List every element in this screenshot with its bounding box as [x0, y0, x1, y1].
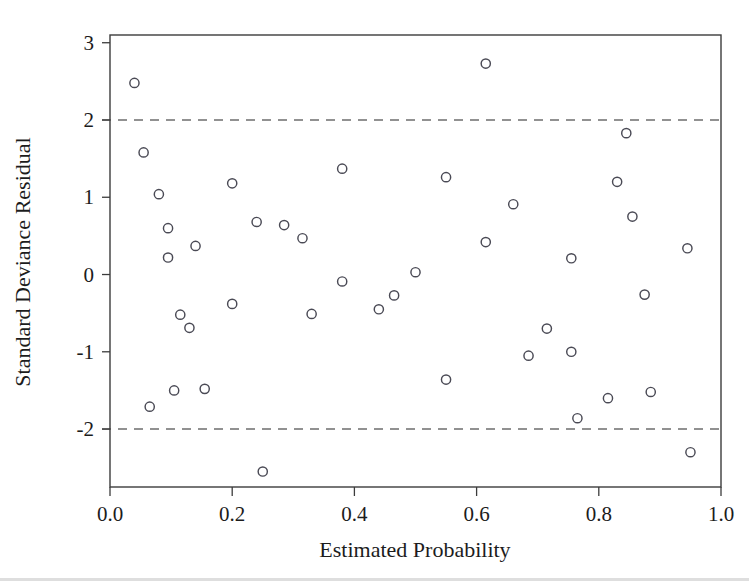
x-tick-label-3: 0.6: [463, 502, 489, 526]
bottom-divider: [0, 578, 749, 581]
x-tick-label-0: 0.0: [97, 502, 123, 526]
y-tick-label-3: 0: [84, 263, 95, 287]
scatter-plot: 3210-1-20.00.20.40.60.81.0 Estimated Pro…: [0, 0, 749, 588]
y-axis-title: Standard Deviance Residual: [10, 137, 35, 386]
y-tick-label-0: 3: [84, 31, 95, 55]
y-tick-label-2: 1: [84, 185, 95, 209]
figure-container: 3210-1-20.00.20.40.60.81.0 Estimated Pro…: [0, 0, 749, 588]
x-tick-label-1: 0.2: [219, 502, 245, 526]
plot-background: [0, 0, 749, 588]
y-tick-label-1: 2: [84, 108, 95, 132]
y-tick-label-5: -2: [77, 417, 95, 441]
x-tick-label-5: 1.0: [708, 502, 734, 526]
x-tick-label-2: 0.4: [341, 502, 368, 526]
y-tick-label-4: -1: [77, 340, 95, 364]
x-tick-label-4: 0.8: [586, 502, 612, 526]
x-axis-title: Estimated Probability: [319, 537, 510, 562]
